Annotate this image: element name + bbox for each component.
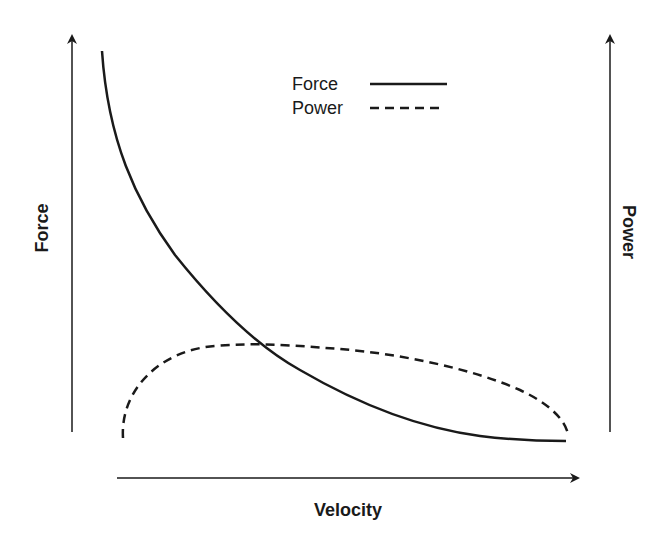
- legend-power-label: Power: [292, 98, 343, 118]
- force-power-velocity-chart: Force Power Velocity Force Power: [0, 0, 672, 552]
- y-axis-left-title: Force: [32, 203, 52, 252]
- power-curve: [123, 344, 568, 438]
- legend: Force Power: [292, 74, 447, 118]
- legend-force-label: Force: [292, 74, 338, 94]
- y-axis-right-title: Power: [619, 205, 639, 259]
- x-axis-title: Velocity: [314, 500, 382, 520]
